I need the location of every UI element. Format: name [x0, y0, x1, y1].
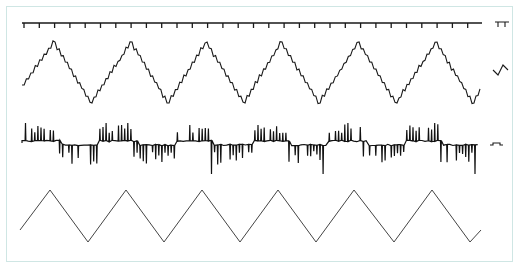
spike-train-trace [22, 123, 478, 174]
reference-triangle-trace [20, 190, 481, 242]
spike-calibration-mark [490, 143, 503, 145]
timer-line [22, 23, 482, 28]
recording-figure [0, 0, 531, 270]
traces-canvas [0, 0, 531, 270]
calibration-marks [490, 22, 509, 145]
triangle-calibration-mark [493, 65, 508, 75]
stepped-triangle-trace [22, 41, 480, 104]
timer-calibration-mark [495, 22, 509, 27]
timer-marker-trace [22, 23, 482, 28]
